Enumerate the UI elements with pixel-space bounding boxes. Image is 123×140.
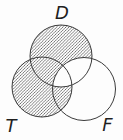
- venn-diagram: D T F: [0, 0, 123, 140]
- label-f: F: [102, 114, 113, 135]
- label-d: D: [55, 2, 69, 23]
